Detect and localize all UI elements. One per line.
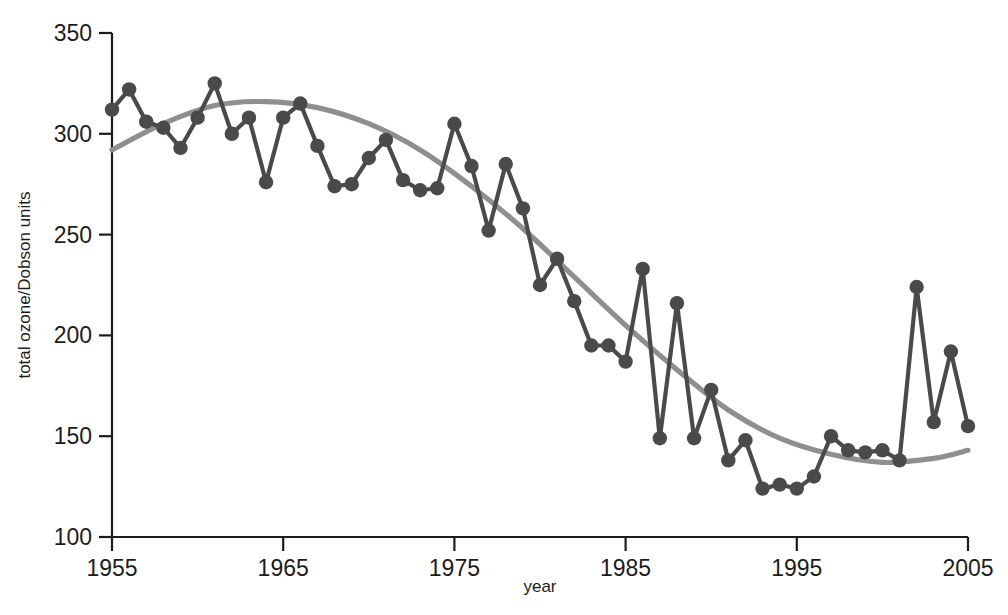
data-point xyxy=(122,82,136,96)
y-tick-label: 350 xyxy=(54,20,92,46)
data-point xyxy=(430,181,444,195)
data-point xyxy=(344,177,358,191)
x-tick-label: 1965 xyxy=(258,555,309,581)
chart-canvas: 100150200250300350 195519651975198519952… xyxy=(0,0,1008,615)
data-point xyxy=(225,127,239,141)
x-tick-label: 2005 xyxy=(942,555,993,581)
data-point xyxy=(670,296,684,310)
data-point xyxy=(755,481,769,495)
data-point xyxy=(824,429,838,443)
data-point xyxy=(772,477,786,491)
data-point xyxy=(601,338,615,352)
data-point xyxy=(704,383,718,397)
data-point xyxy=(447,117,461,131)
data-point xyxy=(259,175,273,189)
data-point xyxy=(242,110,256,124)
data-point xyxy=(618,354,632,368)
x-tick-label: 1985 xyxy=(600,555,651,581)
data-point xyxy=(841,443,855,457)
data-point xyxy=(208,76,222,90)
data-point xyxy=(790,481,804,495)
data-point xyxy=(550,252,564,266)
data-point xyxy=(481,223,495,237)
data-point xyxy=(190,110,204,124)
data-point xyxy=(310,139,324,153)
data-point xyxy=(156,121,170,135)
ozone-chart: 100150200250300350 195519651975198519952… xyxy=(0,0,1008,615)
data-point xyxy=(909,280,923,294)
x-axis-ticks xyxy=(112,537,968,551)
data-point xyxy=(653,431,667,445)
data-point xyxy=(738,433,752,447)
x-tick-label: 1955 xyxy=(86,555,137,581)
x-tick-label: 1975 xyxy=(429,555,480,581)
data-point xyxy=(875,443,889,457)
data-point xyxy=(533,278,547,292)
data-point xyxy=(961,419,975,433)
y-axis-tick-labels: 100150200250300350 xyxy=(54,20,92,550)
x-tick-label: 1995 xyxy=(771,555,822,581)
data-point xyxy=(636,262,650,276)
y-tick-label: 300 xyxy=(54,121,92,147)
data-point xyxy=(892,453,906,467)
data-point xyxy=(327,179,341,193)
data-point xyxy=(379,133,393,147)
data-point xyxy=(516,201,530,215)
data-point xyxy=(927,415,941,429)
data-point xyxy=(687,431,701,445)
y-tick-label: 200 xyxy=(54,322,92,348)
data-point xyxy=(807,469,821,483)
data-point xyxy=(276,110,290,124)
x-axis-title: year xyxy=(523,577,556,596)
data-point xyxy=(721,453,735,467)
data-point xyxy=(464,159,478,173)
data-point xyxy=(944,344,958,358)
y-tick-label: 100 xyxy=(54,524,92,550)
y-tick-label: 150 xyxy=(54,423,92,449)
data-point xyxy=(105,102,119,116)
data-point xyxy=(499,157,513,171)
data-point-markers xyxy=(105,76,975,496)
data-point xyxy=(173,141,187,155)
data-point xyxy=(362,151,376,165)
data-point xyxy=(584,338,598,352)
data-point xyxy=(858,445,872,459)
data-point xyxy=(396,173,410,187)
data-point xyxy=(139,115,153,129)
y-axis-title: total ozone/Dobson units xyxy=(15,191,34,378)
data-point xyxy=(413,183,427,197)
data-point xyxy=(293,96,307,110)
y-tick-label: 250 xyxy=(54,222,92,248)
data-point xyxy=(567,294,581,308)
